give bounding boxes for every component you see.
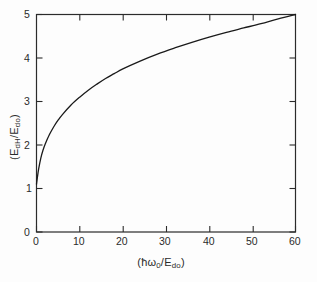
x-tick-label-30: 30 bbox=[159, 235, 171, 247]
x-tick-label-50: 50 bbox=[246, 235, 258, 247]
y-axis-title-slash: / bbox=[8, 135, 20, 138]
right-axis-tick-marks bbox=[290, 58, 296, 232]
top-axis-tick-marks bbox=[80, 15, 253, 21]
y-tick-label-1: 1 bbox=[26, 182, 32, 194]
x-axis-title-e-sub: do bbox=[172, 261, 181, 270]
plot-frame bbox=[37, 15, 296, 233]
figure-canvas: 0 1 2 3 4 5 0 10 20 30 40 50 60 (EdH/Edo… bbox=[0, 0, 317, 282]
y-axis-title-open: ( bbox=[8, 156, 20, 160]
y-axis-title-e2: E bbox=[8, 127, 20, 135]
x-axis-tick-marks bbox=[37, 226, 296, 232]
y-axis-title-e2-sub: do bbox=[13, 118, 22, 127]
y-axis-tick-marks bbox=[37, 15, 43, 233]
x-axis-title-omega: ω bbox=[147, 256, 156, 268]
x-axis-title-e: E bbox=[164, 256, 172, 268]
y-tick-label-3: 3 bbox=[24, 95, 30, 107]
y-tick-label-2: 2 bbox=[24, 139, 30, 151]
y-axis-title: (EdH/Edo) bbox=[8, 95, 22, 179]
y-tick-label-4: 4 bbox=[24, 52, 30, 64]
y-axis-title-close: ) bbox=[8, 114, 20, 118]
x-tick-label-0: 0 bbox=[33, 235, 39, 247]
y-axis-title-e1-sub: dH bbox=[13, 138, 22, 149]
x-tick-label-20: 20 bbox=[116, 235, 128, 247]
y-axis-title-e1: E bbox=[8, 148, 20, 156]
x-tick-label-60: 60 bbox=[289, 235, 301, 247]
x-tick-label-10: 10 bbox=[73, 235, 85, 247]
x-tick-label-40: 40 bbox=[203, 235, 215, 247]
y-tick-label-0: 0 bbox=[24, 226, 30, 238]
y-tick-label-5: 5 bbox=[24, 8, 30, 20]
data-series-line bbox=[37, 15, 296, 185]
x-axis-title-close: ) bbox=[181, 256, 185, 268]
x-axis-title: (ħω0/Edo) bbox=[118, 256, 204, 270]
